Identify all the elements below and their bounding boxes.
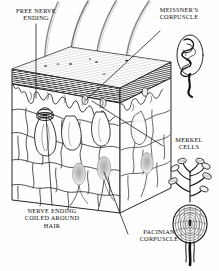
merkel-cells-inset [168, 158, 213, 202]
label-nerve-ending-coiled-around-hair: NERVE ENDING COILED AROUND HAIR [4, 207, 100, 229]
skin-anatomy-figure: FREE NERVE ENDING MEISSNER'S CORPUSCLE M… [0, 0, 219, 271]
hair-follicle-coiled [35, 108, 57, 156]
label-meissners-corpuscle: MEISSNER'S CORPUSCLE [144, 6, 214, 21]
label-pacinian-corpuscle: PACINIAN CORPUSCLE [126, 228, 192, 243]
meissners-corpuscle-inset [177, 35, 203, 97]
label-free-nerve-ending: FREE NERVE ENDING [4, 7, 68, 22]
label-merkel-cells: MERKEL CELLS [164, 136, 214, 151]
